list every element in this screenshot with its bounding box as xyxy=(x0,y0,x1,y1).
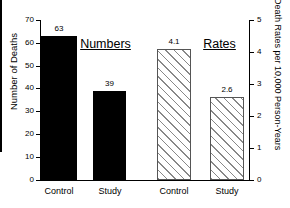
right-tick-label-0: 0 xyxy=(257,176,261,184)
left-tick-label-70: 70 xyxy=(18,16,34,24)
right-tick-4 xyxy=(250,52,254,53)
left-tick-label-50: 50 xyxy=(18,62,34,70)
left-tick-20 xyxy=(36,134,40,135)
chart-figure: Number of Deaths Death Rates per 10,000 … xyxy=(0,0,290,208)
right-tick-label-2: 2 xyxy=(257,112,261,120)
bar-value-rates-control: 4.1 xyxy=(157,38,191,46)
panel-title-rates: Rates xyxy=(192,37,247,51)
bar-numbers-control xyxy=(41,36,77,180)
left-tick-30 xyxy=(36,111,40,112)
left-tick-label-20: 20 xyxy=(18,130,34,138)
bar-value-numbers-study: 39 xyxy=(93,80,126,88)
panel-title-numbers: Numbers xyxy=(68,37,143,51)
right-tick-1 xyxy=(250,148,254,149)
bar-rates-study xyxy=(210,97,244,180)
category-label-numbers-control: Control xyxy=(33,186,85,196)
right-axis-spine xyxy=(249,20,250,181)
right-axis-title: Death Rates per 10,000 Person-Years xyxy=(273,0,283,148)
left-tick-label-60: 60 xyxy=(18,39,34,47)
right-tick-label-4: 4 xyxy=(257,48,261,56)
left-tick-50 xyxy=(36,66,40,67)
bar-value-numbers-control: 63 xyxy=(41,25,77,33)
left-axis-title: Number of Deaths xyxy=(8,0,19,147)
right-tick-5 xyxy=(250,20,254,21)
right-tick-2 xyxy=(250,116,254,117)
left-tick-label-30: 30 xyxy=(18,107,34,115)
left-tick-label-0: 0 xyxy=(18,176,34,184)
category-label-rates-control: Control xyxy=(148,186,200,196)
right-tick-label-1: 1 xyxy=(257,144,261,152)
category-label-rates-study: Study xyxy=(202,186,252,196)
left-tick-label-10: 10 xyxy=(18,153,34,161)
left-tick-0 xyxy=(36,180,40,181)
bar-value-rates-study: 2.6 xyxy=(210,86,244,94)
left-tick-10 xyxy=(36,157,40,158)
right-tick-label-3: 3 xyxy=(257,80,261,88)
panel-divider xyxy=(0,0,2,152)
right-tick-0 xyxy=(250,180,254,181)
category-label-numbers-study: Study xyxy=(85,186,135,196)
baseline-axis xyxy=(40,180,250,181)
right-tick-3 xyxy=(250,84,254,85)
left-tick-40 xyxy=(36,88,40,89)
left-tick-60 xyxy=(36,43,40,44)
bar-numbers-study xyxy=(93,91,126,180)
bar-rates-control xyxy=(157,49,191,180)
left-tick-70 xyxy=(36,20,40,21)
left-tick-label-40: 40 xyxy=(18,84,34,92)
right-tick-label-5: 5 xyxy=(257,16,261,24)
